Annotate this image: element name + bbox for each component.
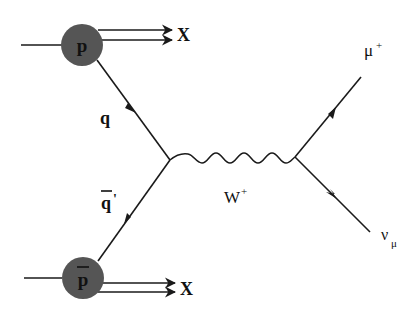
w-boson-label: W +: [224, 185, 247, 207]
muon-line: [295, 77, 361, 157]
svg-text:μ: μ: [391, 237, 397, 249]
antiquark-arrow-icon: [124, 213, 131, 224]
neutrino-label: ν μ: [381, 226, 397, 249]
svg-text:p: p: [78, 269, 89, 290]
svg-text:W: W: [224, 188, 241, 207]
muon-label: μ +: [364, 39, 382, 60]
quark-label: q: [100, 108, 110, 128]
svg-text:ν: ν: [381, 226, 388, 243]
x-top-label: X: [177, 25, 190, 45]
svg-text:+: +: [241, 185, 247, 197]
antiquark-label: q ': [101, 191, 117, 213]
svg-text:+: +: [376, 39, 382, 51]
proton-label: p: [77, 35, 88, 56]
quark-arrow-icon: [125, 103, 136, 113]
svg-text:q: q: [101, 193, 111, 213]
svg-text:': ': [113, 192, 117, 207]
x-bottom-label: X: [180, 279, 193, 299]
muon-arrow-icon: [328, 107, 336, 119]
feynman-diagram: p X q q ' W + μ + ν μ p X: [0, 0, 417, 313]
w-boson-propagator: [170, 153, 295, 163]
svg-text:μ: μ: [364, 41, 373, 60]
antiproton-label: p: [77, 267, 89, 290]
